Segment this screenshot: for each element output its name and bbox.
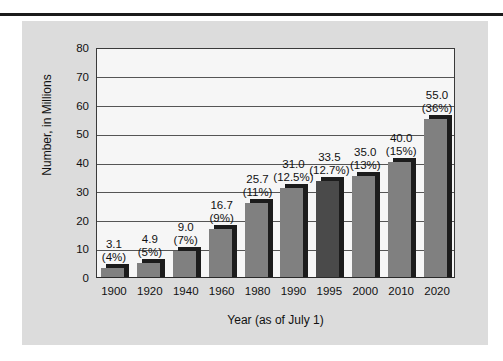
bar-face	[209, 229, 232, 277]
bar-value-label: 40.0	[376, 132, 426, 145]
bar-right-edge	[303, 184, 308, 277]
bar-label-group: 9.0(7%)	[161, 221, 211, 247]
bar-percent-label: (36%)	[412, 102, 462, 115]
bar-face	[137, 263, 160, 277]
bar-percent-label: (11%)	[233, 186, 283, 199]
bar	[280, 184, 308, 277]
bar	[173, 247, 201, 277]
bar-value-label: 16.7	[197, 199, 247, 212]
bar-label-group: 16.7(9%)	[197, 199, 247, 225]
bar-face	[101, 268, 124, 277]
bar-percent-label: (7%)	[161, 234, 211, 247]
bar	[316, 177, 344, 277]
bar-face	[245, 203, 268, 277]
bar-percent-label: (9%)	[197, 212, 247, 225]
bar-right-edge	[375, 172, 380, 277]
bar-label-group: 55.0(36%)	[412, 89, 462, 115]
bar	[245, 199, 273, 277]
bar-value-label: 55.0	[412, 89, 462, 102]
bar-face	[316, 181, 339, 277]
bar	[424, 115, 452, 277]
bar	[352, 172, 380, 277]
bar-face	[173, 251, 196, 277]
bar-right-edge	[339, 177, 344, 277]
x-axis-tick-label: 2020	[415, 285, 459, 298]
bar-percent-label: (13%)	[340, 159, 390, 172]
bar-face	[388, 162, 411, 277]
bar-label-group: 40.0(15%)	[376, 132, 426, 158]
top-divider-rule	[0, 13, 503, 16]
bar	[209, 225, 237, 277]
bar-face	[352, 176, 375, 277]
bar-right-edge	[447, 115, 452, 277]
bar-right-edge	[196, 247, 201, 277]
bar-face	[424, 119, 447, 277]
bar	[101, 264, 129, 277]
bar	[137, 259, 165, 277]
y-axis-title: Number, in Millions	[40, 30, 54, 220]
gridline	[97, 106, 454, 107]
bar-right-edge	[268, 199, 273, 277]
bar	[388, 158, 416, 277]
x-axis-title: Year (as of July 1)	[96, 313, 455, 327]
gridline	[97, 77, 454, 78]
bar-percent-label: (5%)	[125, 246, 175, 259]
bar-right-edge	[411, 158, 416, 277]
bar-percent-label: (15%)	[376, 145, 426, 158]
bar-right-edge	[232, 225, 237, 277]
bar-face	[280, 188, 303, 277]
